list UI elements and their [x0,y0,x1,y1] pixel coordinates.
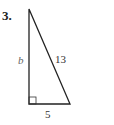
hypotenuse-label: 13 [55,53,67,65]
base-label: 5 [45,108,51,120]
leg-b-label: b [18,54,24,66]
right-triangle-figure: b 13 5 [0,0,114,125]
right-angle-marker [29,97,36,104]
